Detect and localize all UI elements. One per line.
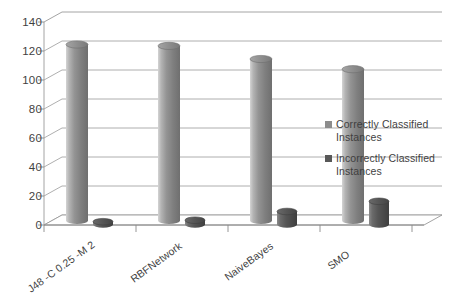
x-tick-rbfnetwork: RBFNetwork: [128, 239, 184, 284]
legend-label-correctly-classified: Correctly Classified Instances: [336, 118, 428, 143]
x-tick-naivebayes: NaiveBayes: [222, 239, 275, 282]
legend-label-incorrectly-classified: Incorrectly Classified Instances: [336, 152, 435, 177]
chart-legend: Correctly Classified Instances Incorrect…: [325, 118, 447, 186]
legend-item-correctly-classified[interactable]: Correctly Classified Instances: [325, 118, 447, 143]
x-tick-smo: SMO: [325, 248, 352, 272]
x-tick-j48: J48 -C 0.25 -M 2: [25, 238, 97, 295]
legend-swatch-icon: [325, 121, 332, 128]
legend-item-incorrectly-classified[interactable]: Incorrectly Classified Instances: [325, 152, 447, 177]
legend-label-line1: Correctly Classified: [336, 118, 428, 130]
legend-label-line1: Incorrectly Classified: [336, 152, 435, 164]
chart-container: 140 120 100 80 60 40 20 0 J48 -C 0.25 -M…: [0, 0, 450, 298]
legend-label-line2: Instances: [336, 131, 382, 143]
legend-swatch-icon: [325, 155, 332, 162]
legend-label-line2: Instances: [336, 165, 382, 177]
